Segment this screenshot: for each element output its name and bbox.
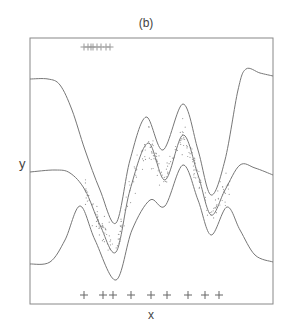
plus-marker-icon — [184, 291, 192, 299]
plus-marker-icon — [109, 291, 117, 299]
observations-scatter — [84, 118, 230, 251]
plus-marker-icon — [80, 291, 88, 299]
plus-marker-icon — [147, 291, 155, 299]
plus-marker-icon — [107, 44, 114, 51]
plus-marker-icon — [163, 291, 171, 299]
plus-marker-icon — [127, 291, 135, 299]
curves — [30, 68, 273, 280]
plot-area — [0, 0, 292, 332]
inducing-points-final — [80, 291, 223, 299]
inducing-points-initial — [81, 44, 114, 51]
plus-marker-icon — [215, 291, 223, 299]
plus-marker-icon — [201, 291, 209, 299]
plus-marker-icon — [99, 291, 107, 299]
lower-band-curve — [30, 165, 273, 280]
